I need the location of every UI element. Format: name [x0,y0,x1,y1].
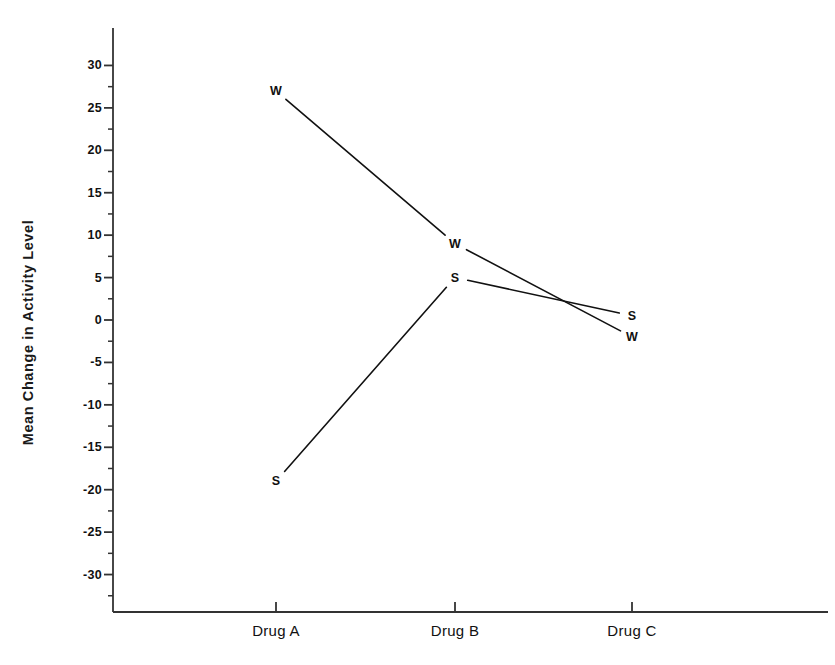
y-axis-tick-label: 30 [40,58,102,72]
y-axis-tick-label: -25 [40,525,102,539]
x-axis-tick-label: Drug B [431,622,480,639]
plot-area [0,0,835,665]
chart-figure: Mean Change in Activity Level -30-25-20-… [0,0,835,665]
data-point-label-s-drug-c: S [628,310,636,323]
data-point-label-s-drug-b: S [451,271,459,284]
y-axis-tick-label: 25 [40,101,102,115]
x-axis-tick-label: Drug C [607,622,656,639]
x-axis-ticks [276,602,632,612]
y-axis-tick-label: -10 [40,398,102,412]
data-point-label-s-drug-a: S [272,475,280,488]
x-axis-tick-label: Drug A [252,622,300,639]
y-axis-label: Mean Change in Activity Level [8,0,48,665]
y-axis-tick-label: 10 [40,228,102,242]
y-axis-tick-label: 20 [40,143,102,157]
y-axis-label-container: Mean Change in Activity Level [8,0,48,665]
y-axis-tick-label: 15 [40,186,102,200]
y-axis-tick-label: 5 [40,271,102,285]
y-axis-tick-label: 0 [40,313,102,327]
y-axis-tick-label: -5 [40,355,102,369]
series-lines [285,99,621,471]
y-axis-major-ticks [104,65,113,574]
data-point-label-w-drug-b: W [449,237,461,250]
y-axis-tick-label: -30 [40,568,102,582]
data-point-label-w-drug-c: W [626,331,638,344]
y-axis-tick-label: -20 [40,483,102,497]
data-point-label-w-drug-a: W [270,85,282,98]
y-axis-tick-label: -15 [40,440,102,454]
